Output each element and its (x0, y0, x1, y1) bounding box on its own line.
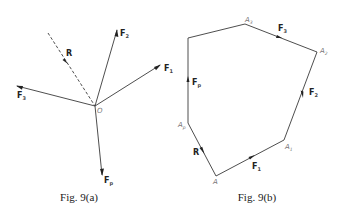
label-f1-a: F1 (164, 64, 173, 74)
arrowhead-r-b (200, 147, 205, 154)
force-f1-arrowhead-a (154, 65, 161, 71)
arrowhead-fp-b (187, 76, 190, 82)
label-fp-a: Fp (104, 176, 113, 187)
figure-a-concurrent-forces: F2 F1 F3 Fp R O Fig. 9(a) (16, 29, 173, 204)
figure-b-force-polygon: F1 F2 F3 Fp R A A1 A2 A3 Ap Fig. 9(b) (177, 16, 328, 204)
label-vertex-a2: A2 (319, 47, 328, 56)
label-fp-b: Fp (192, 78, 201, 89)
arrowhead-f1-b (249, 155, 256, 160)
force-f3-line-a (17, 86, 95, 106)
label-vertex-a1: A1 (284, 143, 293, 152)
label-vertex-a3: A3 (244, 16, 253, 25)
label-f3-b: F3 (278, 24, 287, 34)
label-f2-a: F2 (120, 29, 129, 39)
label-origin-o: O (97, 107, 103, 115)
label-r-b: R (193, 148, 199, 157)
arrowhead-f3-b (276, 35, 282, 38)
side-hidden-b (188, 24, 245, 38)
label-r-a: R (66, 49, 72, 58)
label-f2-b: F2 (309, 88, 318, 98)
label-vertex-a: A (212, 178, 218, 186)
caption-fig-b: Fig. 9(b) (238, 191, 277, 204)
resultant-line-a (48, 33, 95, 106)
force-diagrams: F2 F1 F3 Fp R O Fig. 9(a) F1 F2 F3 Fp R … (0, 0, 342, 216)
label-f3-a: F3 (17, 91, 26, 101)
caption-fig-a: Fig. 9(a) (60, 191, 98, 204)
force-fp-line-a (95, 106, 102, 175)
force-fp-arrowhead-a (100, 169, 104, 176)
label-f1-b: F1 (252, 162, 261, 172)
force-f3-arrowhead-a (16, 86, 23, 90)
label-vertex-ap: Ap (177, 121, 186, 130)
